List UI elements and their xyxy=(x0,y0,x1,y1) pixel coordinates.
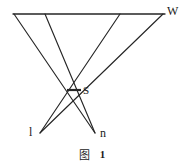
label-right-focus-n: n xyxy=(100,127,106,139)
caption-number: 1 xyxy=(100,148,107,160)
label-left-focus-l: l xyxy=(29,126,32,138)
figure-container: W S l n 图1 xyxy=(0,0,185,167)
ray-w-right-outer xyxy=(40,14,163,133)
ray-lines-group xyxy=(14,14,163,133)
figure-caption: 图1 xyxy=(0,146,185,162)
ray-w-left-outer xyxy=(14,14,95,133)
label-slit-s: S xyxy=(83,85,89,96)
caption-word: 图 xyxy=(79,146,91,162)
ray-diagram xyxy=(0,0,185,167)
label-wavefront-w: W xyxy=(167,5,178,17)
